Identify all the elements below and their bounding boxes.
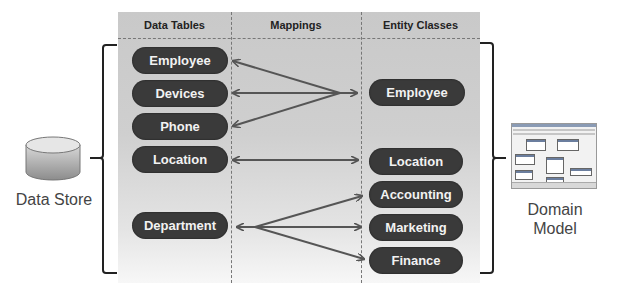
data-store-label: Data Store [8,190,100,209]
column-divider-1 [231,12,232,283]
header-divider [118,38,480,39]
column-header-data-tables: Data Tables [118,19,231,31]
right-bracket-icon [480,43,506,273]
table-phone: Phone [132,113,228,140]
entity-employee: Employee [369,79,465,106]
table-location: Location [132,146,228,173]
database-icon [26,137,80,180]
table-devices: Devices [132,80,228,107]
table-department: Department [132,212,228,239]
entity-accounting: Accounting [369,181,463,208]
domain-model-label-line2: Model [512,219,598,238]
column-divider-2 [361,12,362,283]
left-bracket-icon [90,45,117,273]
column-header-mappings: Mappings [231,19,361,31]
entity-location: Location [369,148,463,175]
entity-finance: Finance [369,247,463,274]
domain-model-label-line1: Domain [512,200,598,219]
column-header-entity-classes: Entity Classes [361,19,480,31]
entity-marketing: Marketing [369,214,463,241]
domain-model-thumbnail-icon [511,123,597,189]
table-employee: Employee [132,47,228,74]
